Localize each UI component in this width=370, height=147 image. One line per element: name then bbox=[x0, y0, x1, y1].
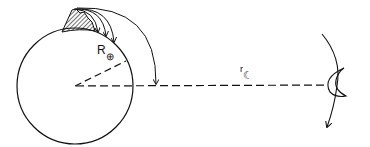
earth-radius-label: R bbox=[97, 43, 106, 57]
moon-crescent bbox=[328, 68, 346, 97]
earth-symbol-icon: ⊕ bbox=[106, 51, 114, 62]
earth-radius-dashed-line bbox=[75, 61, 126, 86]
mountain-peak-hatched bbox=[62, 9, 95, 32]
earth-moon-diagram bbox=[0, 0, 370, 147]
earth-moon-distance-dashed-line bbox=[76, 85, 336, 86]
moon-symbol-icon: ☾ bbox=[243, 69, 253, 82]
